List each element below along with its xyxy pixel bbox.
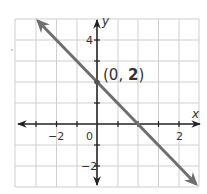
x-tick-label-neg2: −2 [48, 130, 64, 143]
point-label-open: (0, [103, 66, 128, 84]
point-label: (0, 2) [103, 66, 144, 84]
y-axis-label: y [101, 14, 110, 28]
grid [15, 19, 199, 187]
x-tick-label-2: 2 [176, 130, 183, 143]
x-tick-label-0: 0 [86, 130, 93, 143]
coordinate-graph: y x 4 −2 −2 0 2 (0, 2) [0, 0, 207, 194]
point-label-value: 2 [128, 66, 138, 84]
y-tick-label-neg2: −2 [81, 160, 97, 173]
point-label-close: ) [138, 66, 144, 84]
y-tick-label-4: 4 [86, 34, 93, 47]
x-axis-label: x [191, 107, 200, 121]
point-marker [94, 79, 99, 84]
speck [11, 49, 13, 51]
